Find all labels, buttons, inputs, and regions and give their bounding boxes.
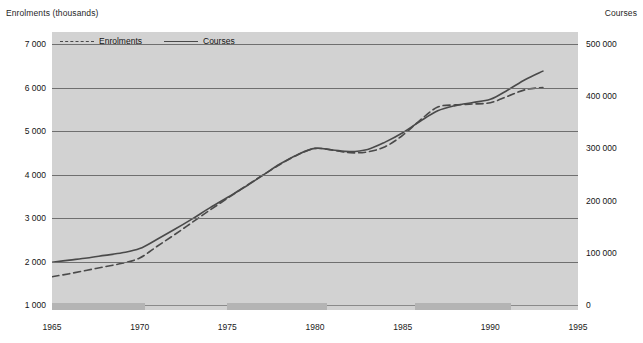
legend-label: Courses xyxy=(203,36,235,46)
right-tick-label: 300 000 xyxy=(586,143,643,153)
legend-label: Enrolments xyxy=(99,36,142,46)
left-tick-label: 6 000 xyxy=(0,83,46,93)
right-tick-label: 100 000 xyxy=(586,248,643,258)
gridline-6000 xyxy=(52,88,578,89)
legend-line-swatch xyxy=(164,41,198,42)
plot-inner: EnrolmentsCourses xyxy=(52,32,578,310)
left-tick-label: 2 000 xyxy=(0,257,46,267)
x-tick-label: 1965 xyxy=(22,322,82,332)
clipped-header-text xyxy=(0,0,643,1)
legend-item-enrolments[interactable]: Enrolments xyxy=(60,36,142,46)
gridline-5000 xyxy=(52,131,578,132)
plot-area: EnrolmentsCourses xyxy=(52,32,578,310)
x-tick-label: 1985 xyxy=(373,322,433,332)
right-tick-label: 500 000 xyxy=(586,39,643,49)
series-lines xyxy=(52,32,578,310)
line-enrolments xyxy=(52,88,543,277)
x-tick-label: 1980 xyxy=(285,322,345,332)
left-tick-label: 1 000 xyxy=(0,300,46,310)
left-tick-label: 7 000 xyxy=(0,39,46,49)
right-tick-label: 400 000 xyxy=(586,91,643,101)
right-tick-label: 0 xyxy=(586,300,643,310)
x-tick-label: 1995 xyxy=(548,322,608,332)
x-tick-label: 1970 xyxy=(110,322,170,332)
legend-item-courses[interactable]: Courses xyxy=(164,36,235,46)
shaded-band xyxy=(415,303,511,310)
gridline-2000 xyxy=(52,262,578,263)
shaded-band xyxy=(52,303,145,310)
gridline-4000 xyxy=(52,175,578,176)
legend-line-swatch xyxy=(60,41,94,42)
right-tick-label: 200 000 xyxy=(586,196,643,206)
right-axis-title: Courses xyxy=(605,8,637,18)
left-tick-label: 4 000 xyxy=(0,170,46,180)
x-tick-label: 1975 xyxy=(197,322,257,332)
shaded-band xyxy=(227,303,327,310)
x-tick-label: 1990 xyxy=(460,322,520,332)
line-courses xyxy=(52,71,543,262)
chart-figure: Enrolments (thousands) Courses Enrolment… xyxy=(0,0,643,343)
left-tick-label: 3 000 xyxy=(0,213,46,223)
left-axis-title: Enrolments (thousands) xyxy=(6,8,98,18)
gridline-3000 xyxy=(52,218,578,219)
chart-legend: EnrolmentsCourses xyxy=(60,36,235,46)
left-tick-label: 5 000 xyxy=(0,126,46,136)
